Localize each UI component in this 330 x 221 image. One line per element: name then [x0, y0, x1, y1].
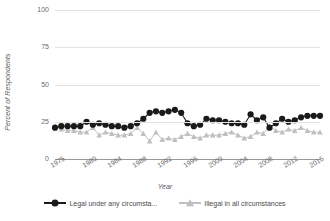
data-point — [266, 125, 272, 131]
y-tick-label-0: 0 — [19, 155, 49, 162]
data-point — [273, 128, 279, 133]
gridline-25 — [55, 122, 320, 123]
data-point — [178, 110, 184, 116]
data-point — [185, 131, 191, 136]
data-point — [317, 113, 323, 119]
gridline-75 — [55, 47, 320, 48]
data-point — [298, 125, 304, 130]
data-point — [172, 107, 178, 113]
chart-container: Percent of Respondents 1007550250 197519… — [0, 0, 330, 221]
legend-label-legal: Legal under any circumsta... — [69, 200, 157, 207]
data-point — [71, 123, 77, 129]
data-point — [58, 123, 64, 129]
data-point — [286, 126, 292, 131]
legend-swatch-legal — [44, 198, 66, 208]
y-tick-label-50: 50 — [19, 81, 49, 88]
data-point — [52, 125, 58, 131]
y-axis-title: Percent of Respondents — [4, 53, 11, 130]
data-point — [121, 125, 127, 131]
y-tick-label-75: 75 — [19, 43, 49, 50]
gridline-50 — [55, 85, 320, 86]
data-point — [298, 114, 304, 120]
data-point — [191, 134, 197, 139]
data-point — [229, 129, 235, 134]
data-point — [159, 110, 165, 116]
data-point — [77, 123, 83, 129]
legend-item-illegal[interactable]: Illegal in all circumstances — [179, 198, 285, 208]
legend-label-illegal: Illegal in all circumstances — [204, 200, 285, 207]
data-point — [305, 128, 311, 133]
data-point — [153, 108, 159, 114]
y-tick-label-25: 25 — [19, 118, 49, 125]
data-point — [248, 111, 254, 117]
y-tick-label-100: 100 — [19, 6, 49, 13]
x-tick-label-1975: 1975 — [49, 155, 66, 169]
data-point — [109, 123, 115, 129]
data-point — [165, 108, 171, 114]
data-point — [311, 113, 317, 119]
data-point — [178, 134, 184, 139]
data-point — [153, 129, 159, 134]
data-point — [103, 129, 109, 134]
legend-swatch-illegal — [179, 198, 201, 208]
data-point — [254, 129, 260, 134]
data-point — [248, 134, 254, 139]
data-point — [128, 123, 134, 129]
data-point — [304, 113, 310, 119]
chart-legend: Legal under any circumsta... Illegal in … — [0, 195, 330, 211]
data-point — [166, 135, 172, 140]
plot-area — [55, 10, 320, 160]
data-point — [147, 110, 153, 116]
y-axis-title-wrap: Percent of Respondents — [0, 22, 14, 162]
circle-marker-icon — [52, 200, 59, 207]
x-axis-title: Year — [0, 183, 330, 190]
data-point — [260, 114, 266, 120]
data-point — [65, 123, 71, 129]
legend-item-legal[interactable]: Legal under any circumsta... — [44, 198, 157, 208]
gridline-100 — [55, 10, 320, 11]
triangle-marker-icon — [186, 199, 194, 206]
data-point — [115, 123, 121, 129]
data-point — [235, 132, 241, 137]
data-point — [191, 123, 197, 129]
